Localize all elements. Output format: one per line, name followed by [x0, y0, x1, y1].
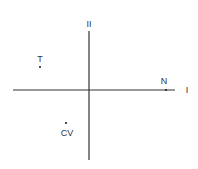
- point-n: [165, 89, 167, 91]
- point-label-t: T: [37, 55, 43, 64]
- x-axis-label: I: [186, 86, 189, 95]
- point-cv: [65, 122, 67, 124]
- point-label-n: N: [161, 77, 168, 86]
- y-axis-label: II: [86, 20, 91, 29]
- point-label-cv: CV: [61, 129, 74, 138]
- scatter-plot: [0, 0, 198, 169]
- point-t: [39, 66, 41, 68]
